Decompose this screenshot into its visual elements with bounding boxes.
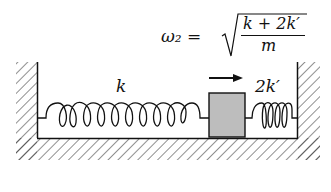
- mass-block: [209, 93, 245, 137]
- label-spring-2k-prime: 2k′: [255, 76, 280, 96]
- spring-mass-diagram: ω₂ = k + 2k′ m k 2k′: [0, 0, 331, 192]
- arrow-right-icon: [209, 74, 243, 82]
- label-spring-k: k: [116, 76, 126, 96]
- spring-2k-prime: [245, 103, 298, 128]
- formula-denominator: m: [261, 36, 276, 55]
- formula-lhs: ω₂ =: [161, 26, 201, 46]
- formula-numerator: k + 2k′: [243, 14, 300, 33]
- spring-k: [37, 102, 209, 126]
- floor: [16, 138, 320, 160]
